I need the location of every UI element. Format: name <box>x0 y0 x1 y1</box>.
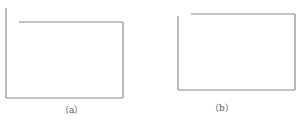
panel-a: （a） <box>6 8 123 115</box>
diagram-canvas: （a） （b） <box>0 0 301 124</box>
panel-b: （b） <box>178 14 295 113</box>
panel-b-caption: （b） <box>210 103 234 113</box>
panel-a-caption: （a） <box>60 105 83 115</box>
